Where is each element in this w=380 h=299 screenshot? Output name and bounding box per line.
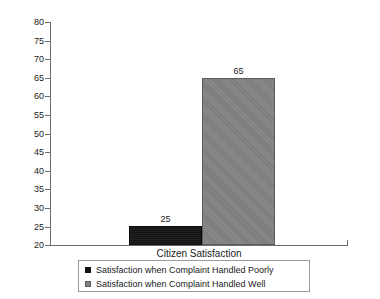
x-axis-end-tick — [347, 240, 348, 246]
legend-label-well: Satisfaction when Complaint Handled Well — [96, 279, 265, 289]
bar-satisfaction-handled-poorly[interactable] — [129, 226, 202, 245]
bar-satisfaction-handled-well[interactable] — [202, 78, 275, 245]
y-axis-label-50: 50 — [0, 130, 44, 139]
y-axis-label-20: 20 — [0, 241, 44, 250]
legend-item-well[interactable]: Satisfaction when Complaint Handled Well — [85, 277, 309, 291]
y-axis-label-40: 40 — [0, 167, 44, 176]
x-axis-category-label: Citizen Satisfaction — [50, 248, 348, 260]
y-axis-label-75: 75 — [0, 37, 44, 46]
bar-value-label-poorly: 25 — [146, 215, 186, 224]
y-axis-label-70: 70 — [0, 55, 44, 64]
legend-label-poorly: Satisfaction when Complaint Handled Poor… — [96, 265, 274, 275]
y-axis-label-80: 80 — [0, 18, 44, 27]
y-axis-label-65: 65 — [0, 74, 44, 83]
legend-item-poorly[interactable]: Satisfaction when Complaint Handled Poor… — [85, 263, 309, 277]
y-axis-label-25: 25 — [0, 223, 44, 232]
legend-swatch-black-icon — [85, 267, 91, 273]
y-axis-label-35: 35 — [0, 185, 44, 194]
x-axis-line — [50, 245, 348, 246]
y-axis-label-30: 30 — [0, 204, 44, 213]
chart-legend: Satisfaction when Complaint Handled Poor… — [78, 260, 310, 292]
bar-value-label-well: 65 — [219, 67, 259, 76]
plot-area: 25 65 — [50, 22, 348, 245]
y-axis-label-55: 55 — [0, 111, 44, 120]
y-axis-label-45: 45 — [0, 148, 44, 157]
bar-chart: 80 75 70 65 60 55 50 45 40 35 30 25 20 2… — [0, 0, 380, 299]
y-axis-label-60: 60 — [0, 92, 44, 101]
legend-swatch-gray-icon — [85, 281, 91, 287]
